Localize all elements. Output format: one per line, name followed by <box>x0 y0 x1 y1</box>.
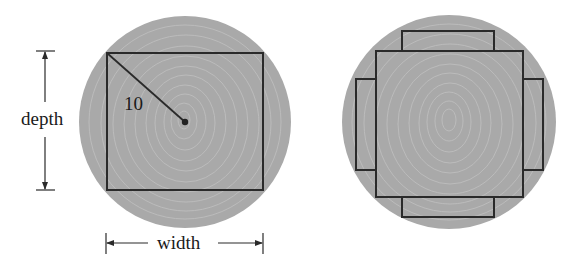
left-log-figure: 10 depth width <box>21 16 291 254</box>
depth-dimension: depth <box>21 51 64 190</box>
radius-label: 10 <box>124 93 143 114</box>
center-point <box>182 119 188 125</box>
width-dimension: width <box>106 232 263 254</box>
lumber-diagram: 10 depth width <box>0 0 566 267</box>
width-label: width <box>157 232 201 253</box>
depth-label: depth <box>21 108 64 129</box>
right-log-figure <box>342 15 556 229</box>
